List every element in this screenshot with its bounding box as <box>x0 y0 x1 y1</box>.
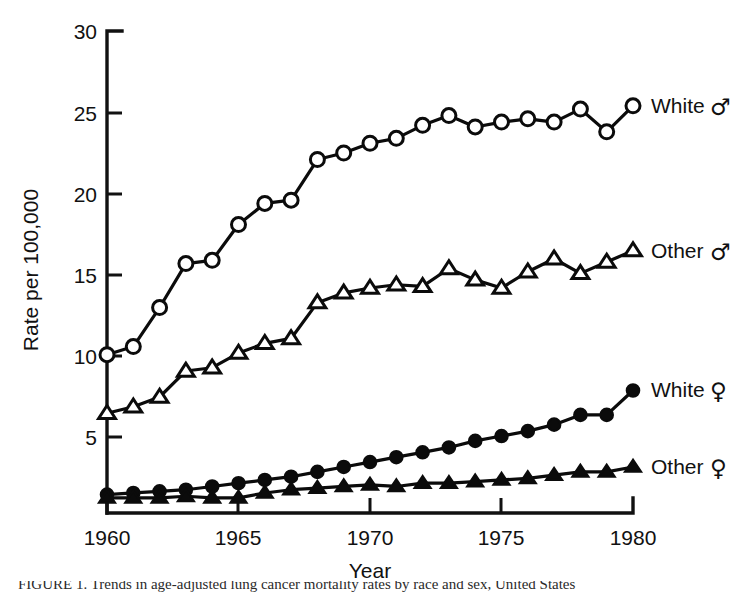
data-point-open-circle <box>495 115 509 129</box>
y-tick-label-20: 20 <box>74 183 97 206</box>
data-point-filled-circle <box>364 456 376 468</box>
x-tick-label-1960: 1960 <box>84 526 131 549</box>
data-point-filled-circle <box>390 451 402 463</box>
data-point-open-circle <box>100 348 114 362</box>
y-axis-spine <box>107 31 122 513</box>
legend-label-text: White <box>651 94 705 117</box>
legend-sex-symbol-icon: ♂ <box>710 94 731 120</box>
series-layer <box>99 99 642 503</box>
data-point-open-circle <box>573 102 587 116</box>
data-point-open-triangle <box>256 336 273 349</box>
data-point-open-circle <box>626 99 640 113</box>
data-point-open-circle <box>416 118 430 132</box>
y-tick-label-15: 15 <box>74 264 97 287</box>
data-point-open-triangle <box>388 277 405 290</box>
legend-item-2: White♀ <box>651 378 727 404</box>
data-point-filled-triangle <box>625 460 641 472</box>
x-tick-label-1965: 1965 <box>215 526 262 549</box>
y-tick-label-30: 30 <box>74 20 97 43</box>
data-point-open-circle <box>337 146 351 160</box>
y-axis-title: Rate per 100,000 <box>19 189 42 351</box>
series-0 <box>100 99 640 362</box>
data-point-open-triangle <box>546 251 563 264</box>
data-point-filled-circle <box>522 425 534 437</box>
data-point-open-circle <box>258 196 272 210</box>
data-point-open-circle <box>232 218 246 232</box>
data-point-open-triangle <box>572 266 589 279</box>
data-point-open-circle <box>521 112 535 126</box>
data-point-open-triangle <box>335 285 352 298</box>
data-point-open-circle <box>284 193 298 207</box>
data-point-open-triangle <box>467 272 484 285</box>
data-point-open-triangle <box>178 363 195 376</box>
figure-caption-strip: FIGURE 1. Trends in age-adjusted lung ca… <box>18 581 718 592</box>
data-point-open-circle <box>179 257 193 271</box>
figure-container: 30 25 20 15 10 5 1960 1965 1970 1975 198… <box>0 0 743 596</box>
data-point-open-circle <box>153 301 167 315</box>
data-point-open-triangle <box>441 261 458 274</box>
data-point-filled-circle <box>627 384 639 396</box>
line-chart: 30 25 20 15 10 5 1960 1965 1970 1975 198… <box>0 0 743 596</box>
data-point-open-triangle <box>125 399 142 412</box>
chart-legend: White♂Other♂White♀Other♀ <box>651 94 731 481</box>
legend-sex-symbol-icon: ♂ <box>710 239 731 265</box>
data-point-filled-circle <box>338 461 350 473</box>
data-point-open-circle <box>389 131 403 145</box>
data-point-filled-circle <box>574 409 586 421</box>
data-point-filled-circle <box>232 477 244 489</box>
data-point-filled-circle <box>548 418 560 430</box>
data-point-filled-circle <box>416 446 428 458</box>
data-point-open-triangle <box>309 295 326 308</box>
data-point-open-triangle <box>625 243 642 256</box>
data-point-open-circle <box>547 115 561 129</box>
series-line <box>107 251 633 414</box>
data-point-open-triangle <box>519 264 536 277</box>
data-point-filled-circle <box>443 441 455 453</box>
legend-sex-symbol-icon: ♀ <box>710 378 727 404</box>
x-tick-label-1975: 1975 <box>478 526 525 549</box>
legend-sex-symbol-icon: ♀ <box>710 455 727 481</box>
legend-label-text: White <box>651 378 705 401</box>
y-tick-label-10: 10 <box>74 345 97 368</box>
y-tick-labels: 30 25 20 15 10 5 <box>74 20 97 449</box>
data-point-filled-circle <box>495 430 507 442</box>
data-point-open-circle <box>310 153 324 167</box>
x-tick-labels: 1960 1965 1970 1975 1980 <box>84 526 657 549</box>
data-point-filled-circle <box>311 466 323 478</box>
data-point-open-circle <box>442 109 456 123</box>
data-point-open-triangle <box>204 360 221 373</box>
legend-label-text: Other <box>651 455 704 478</box>
data-point-open-triangle <box>99 405 116 418</box>
y-tick-label-25: 25 <box>74 102 97 125</box>
data-point-open-triangle <box>598 254 615 267</box>
data-point-open-triangle <box>230 345 247 358</box>
y-axis <box>107 31 122 513</box>
legend-item-0: White♂ <box>651 94 731 120</box>
legend-item-1: Other♂ <box>651 239 731 265</box>
data-point-open-circle <box>363 136 377 150</box>
data-point-open-circle <box>205 253 219 267</box>
figure-caption: FIGURE 1. Trends in age-adjusted lung ca… <box>18 581 718 592</box>
legend-item-3: Other♀ <box>651 455 727 481</box>
data-point-filled-circle <box>469 435 481 447</box>
x-axis-title: Year <box>349 559 391 582</box>
legend-label-text: Other <box>651 239 704 262</box>
y-tick-label-5: 5 <box>85 426 97 449</box>
data-point-open-triangle <box>362 280 379 293</box>
x-tick-label-1980: 1980 <box>610 526 657 549</box>
data-point-filled-circle <box>601 409 613 421</box>
x-tick-label-1970: 1970 <box>347 526 394 549</box>
data-point-open-circle <box>600 125 614 139</box>
data-point-open-triangle <box>493 280 510 293</box>
data-point-open-circle <box>126 340 140 354</box>
data-point-open-circle <box>468 120 482 134</box>
